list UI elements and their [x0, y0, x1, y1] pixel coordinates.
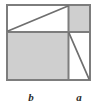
- label-b: b: [28, 91, 34, 103]
- region-fills: [7, 5, 90, 80]
- top-right-square-a: [69, 5, 91, 32]
- figure-canvas: b a: [0, 0, 98, 109]
- bottom-left-square-b: [7, 32, 69, 80]
- geometry-figure: b a: [0, 0, 98, 109]
- label-a: a: [76, 91, 82, 103]
